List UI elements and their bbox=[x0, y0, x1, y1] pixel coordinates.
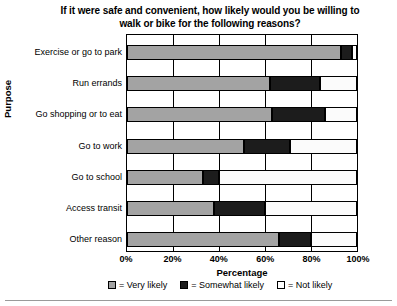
bar-row bbox=[127, 201, 357, 216]
y-axis-tick-label: Go to work bbox=[2, 141, 122, 151]
bar-segment bbox=[244, 139, 290, 154]
bar-segment bbox=[127, 170, 203, 185]
stacked-bar-chart: If it were safe and convenient, how like… bbox=[0, 0, 397, 306]
bars-layer bbox=[127, 35, 357, 251]
bar-segment bbox=[320, 76, 357, 91]
x-axis-tick-label: 20% bbox=[152, 254, 192, 264]
chart-title-line-2: walk or bike for the following reasons? bbox=[50, 18, 370, 31]
y-axis-tick-label: Other reason bbox=[2, 234, 122, 244]
y-axis-tick-label: Run errands bbox=[2, 78, 122, 88]
bar-segment bbox=[219, 170, 357, 185]
legend-swatch-icon bbox=[277, 281, 285, 289]
y-axis-tick-label: Exercise or go to park bbox=[2, 47, 122, 57]
bar-segment bbox=[127, 76, 270, 91]
x-axis-tick-label: 40% bbox=[199, 254, 239, 264]
bar-segment bbox=[290, 139, 357, 154]
bar-segment bbox=[127, 45, 341, 60]
bar-segment bbox=[203, 170, 219, 185]
legend-label: = Somewhat likely bbox=[191, 280, 264, 290]
bar-row bbox=[127, 76, 357, 91]
bottom-divider bbox=[5, 300, 392, 301]
bar-segment bbox=[325, 107, 357, 122]
y-axis-tick-label: Access transit bbox=[2, 203, 122, 213]
bar-segment bbox=[127, 232, 279, 247]
legend-label: = Very likely bbox=[119, 280, 167, 290]
bar-segment bbox=[272, 107, 325, 122]
chart-legend: = Very likely= Somewhat likely= Not like… bbox=[108, 280, 358, 290]
chart-title: If it were safe and convenient, how like… bbox=[50, 5, 370, 30]
legend-label: = Not likely bbox=[288, 280, 332, 290]
legend-swatch-icon bbox=[108, 281, 116, 289]
bar-row bbox=[127, 139, 357, 154]
x-axis-tick-labels: 0%20%40%60%80%100% bbox=[126, 254, 358, 268]
bar-segment bbox=[265, 201, 357, 216]
y-axis-tick-labels: Exercise or go to parkRun errandsGo shop… bbox=[0, 34, 122, 252]
x-axis-tick-label: 80% bbox=[292, 254, 332, 264]
x-axis-tick-label: 0% bbox=[106, 254, 146, 264]
x-axis-tick-label: 60% bbox=[245, 254, 285, 264]
legend-item: = Very likely bbox=[108, 280, 167, 290]
bar-row bbox=[127, 45, 357, 60]
bar-segment bbox=[279, 232, 311, 247]
bar-segment bbox=[127, 107, 272, 122]
bar-segment bbox=[127, 139, 244, 154]
x-axis-tick-label: 100% bbox=[338, 254, 378, 264]
bar-segment bbox=[270, 76, 321, 91]
bar-segment bbox=[311, 232, 357, 247]
legend-item: = Somewhat likely bbox=[180, 280, 264, 290]
bar-segment bbox=[127, 201, 214, 216]
bar-segment bbox=[341, 45, 353, 60]
legend-swatch-icon bbox=[180, 281, 188, 289]
legend-item: = Not likely bbox=[277, 280, 332, 290]
x-axis-title: Percentage bbox=[126, 267, 358, 278]
bar-row bbox=[127, 232, 357, 247]
bar-segment bbox=[214, 201, 265, 216]
bar-row bbox=[127, 170, 357, 185]
bar-row bbox=[127, 107, 357, 122]
plot-area bbox=[126, 34, 358, 252]
y-axis-tick-label: Go to school bbox=[2, 172, 122, 182]
y-axis-tick-label: Go shopping or to eat bbox=[2, 109, 122, 119]
bar-segment bbox=[352, 45, 357, 60]
chart-title-line-1: If it were safe and convenient, how like… bbox=[50, 5, 370, 18]
